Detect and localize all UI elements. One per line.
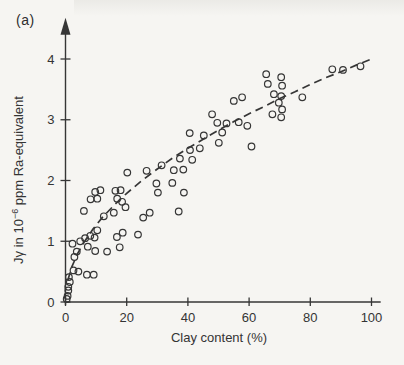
y-tick-label: 3 [47, 112, 54, 127]
data-point [248, 143, 255, 150]
data-point [177, 155, 184, 162]
data-point [90, 271, 97, 278]
data-point [214, 120, 221, 127]
data-point [239, 94, 246, 101]
data-point [146, 209, 153, 216]
data-point [69, 240, 76, 247]
data-point [180, 166, 187, 173]
data-point [181, 189, 188, 196]
x-tick-label: 80 [303, 310, 317, 325]
data-point [278, 114, 285, 121]
data-point [279, 106, 286, 113]
data-point [155, 189, 162, 196]
data-point [143, 168, 150, 175]
data-point [269, 111, 276, 118]
data-point [279, 82, 286, 89]
data-point [116, 244, 123, 251]
data-point [169, 180, 176, 187]
y-axis-title-superscript: −6 [10, 209, 20, 219]
x-tick-label: 40 [181, 310, 195, 325]
y-tick-label: 0 [47, 295, 54, 310]
y-tick-label: 2 [47, 173, 54, 188]
data-point [197, 145, 204, 152]
x-tick-label: 20 [119, 310, 133, 325]
data-point [265, 81, 272, 88]
data-point [201, 132, 208, 139]
data-point [114, 234, 121, 241]
data-point [92, 248, 99, 255]
x-tick-label: 60 [242, 310, 256, 325]
y-tick-label: 1 [47, 234, 54, 249]
scatter-chart: 02040608010001234 [0, 0, 404, 365]
data-point [171, 167, 178, 174]
data-point [231, 98, 238, 105]
data-point [153, 180, 160, 187]
data-point [94, 195, 101, 202]
x-axis-title: Clay content (%) [108, 330, 330, 345]
data-point [111, 209, 118, 216]
data-point [94, 227, 101, 234]
data-point [119, 229, 126, 236]
y-tick-label: 4 [47, 52, 54, 67]
data-point [85, 243, 92, 250]
x-tick-label: 100 [361, 310, 383, 325]
data-point [276, 99, 283, 106]
data-point [209, 111, 216, 118]
data-point [101, 213, 108, 220]
figure-panel: (a) 02040608010001234 Jγ in 10−6 ppm Ra-… [0, 0, 404, 365]
trend-curve [68, 59, 372, 280]
data-point [135, 231, 142, 238]
data-point [216, 140, 223, 147]
data-point [186, 130, 193, 137]
data-point [140, 214, 147, 221]
data-point [104, 248, 111, 255]
data-point [81, 208, 88, 215]
data-point [91, 234, 98, 241]
x-tick-label: 0 [62, 310, 69, 325]
data-point [87, 196, 94, 203]
data-point [244, 123, 251, 130]
data-point [278, 74, 285, 81]
y-axis-title: Jγ in 10−6 ppm Ra-equivalent [10, 49, 28, 311]
data-point [219, 129, 226, 136]
y-axis-title-suffix: ppm Ra-equivalent [11, 96, 26, 209]
data-point [84, 271, 91, 278]
data-point [299, 94, 306, 101]
data-point [329, 66, 336, 73]
y-axis-title-text: Jγ in 10 [11, 219, 26, 264]
data-point [189, 157, 196, 164]
data-point [158, 162, 165, 169]
data-point [357, 63, 364, 70]
data-point [175, 208, 182, 215]
data-point [122, 204, 129, 211]
data-point [271, 91, 278, 98]
data-point [263, 71, 270, 78]
y-axis-arrowhead-icon [61, 18, 71, 35]
data-point [124, 169, 131, 176]
